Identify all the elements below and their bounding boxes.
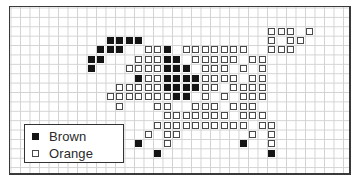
orange-stitch — [259, 122, 266, 129]
brown-stitch — [97, 46, 104, 53]
orange-stitch — [164, 140, 171, 147]
orange-stitch — [221, 112, 228, 119]
orange-stitch — [221, 75, 228, 82]
orange-stitch — [164, 112, 171, 119]
orange-stitch — [230, 56, 237, 63]
brown-stitch — [97, 56, 104, 63]
orange-stitch — [202, 93, 209, 100]
orange-stitch — [287, 37, 294, 44]
orange-stitch — [192, 56, 199, 63]
orange-stitch — [145, 65, 152, 72]
orange-stitch — [154, 46, 161, 53]
brown-stitch — [88, 65, 95, 72]
brown-stitch — [135, 140, 142, 147]
orange-stitch — [145, 131, 152, 138]
orange-stitch — [202, 84, 209, 91]
orange-stitch — [211, 103, 218, 110]
brown-stitch — [183, 93, 190, 100]
orange-stitch — [164, 131, 171, 138]
pattern-grid: Brown Orange — [9, 6, 351, 175]
orange-stitch — [126, 93, 133, 100]
orange-stitch — [154, 75, 161, 82]
brown-stitch — [116, 37, 123, 44]
orange-stitch — [249, 112, 256, 119]
legend-label-brown: Brown — [49, 129, 86, 144]
orange-stitch — [107, 93, 114, 100]
orange-stitch — [211, 84, 218, 91]
orange-stitch — [268, 122, 275, 129]
orange-stitch — [192, 122, 199, 129]
orange-stitch — [230, 46, 237, 53]
orange-stitch — [240, 93, 247, 100]
orange-swatch-icon — [32, 150, 39, 157]
brown-stitch — [107, 37, 114, 44]
orange-stitch — [259, 75, 266, 82]
orange-stitch — [145, 75, 152, 82]
orange-stitch — [202, 112, 209, 119]
orange-stitch — [126, 65, 133, 72]
brown-stitch — [173, 75, 180, 82]
orange-stitch — [249, 103, 256, 110]
orange-stitch — [249, 84, 256, 91]
orange-stitch — [154, 122, 161, 129]
orange-stitch — [164, 93, 171, 100]
orange-stitch — [268, 140, 275, 147]
orange-stitch — [135, 84, 142, 91]
brown-stitch — [88, 56, 95, 63]
orange-stitch — [126, 84, 133, 91]
orange-stitch — [221, 93, 228, 100]
orange-stitch — [192, 103, 199, 110]
orange-stitch — [202, 56, 209, 63]
orange-stitch — [249, 93, 256, 100]
brown-stitch — [164, 65, 171, 72]
brown-stitch — [173, 65, 180, 72]
brown-stitch — [164, 46, 171, 53]
orange-stitch — [268, 131, 275, 138]
orange-stitch — [259, 93, 266, 100]
legend-label-orange: Orange — [49, 146, 93, 161]
orange-stitch — [211, 122, 218, 129]
orange-stitch — [202, 75, 209, 82]
orange-stitch — [154, 56, 161, 63]
orange-stitch — [154, 65, 161, 72]
brown-swatch-icon — [32, 133, 39, 140]
orange-stitch — [297, 37, 304, 44]
orange-stitch — [278, 28, 285, 35]
orange-stitch — [116, 84, 123, 91]
orange-stitch — [268, 37, 275, 44]
orange-stitch — [306, 28, 313, 35]
orange-stitch — [259, 112, 266, 119]
orange-stitch — [230, 84, 237, 91]
orange-stitch — [211, 46, 218, 53]
brown-stitch — [240, 140, 247, 147]
orange-stitch — [268, 28, 275, 35]
orange-stitch — [278, 46, 285, 53]
orange-stitch — [202, 122, 209, 129]
orange-stitch — [249, 56, 256, 63]
orange-stitch — [230, 103, 237, 110]
orange-stitch — [240, 112, 247, 119]
orange-stitch — [249, 75, 256, 82]
brown-stitch — [173, 93, 180, 100]
brown-stitch — [192, 75, 199, 82]
orange-stitch — [249, 131, 256, 138]
brown-stitch — [135, 37, 142, 44]
orange-stitch — [240, 84, 247, 91]
orange-stitch — [183, 112, 190, 119]
brown-stitch — [183, 65, 190, 72]
brown-stitch — [183, 84, 190, 91]
orange-stitch — [154, 93, 161, 100]
orange-stitch — [259, 65, 266, 72]
orange-stitch — [164, 103, 171, 110]
brown-stitch — [192, 84, 199, 91]
brown-stitch — [164, 56, 171, 63]
brown-stitch — [154, 150, 161, 157]
brown-stitch — [107, 46, 114, 53]
orange-stitch — [211, 65, 218, 72]
orange-stitch — [230, 75, 237, 82]
orange-stitch — [145, 46, 152, 53]
legend-item-brown: Brown — [25, 128, 86, 144]
orange-stitch — [164, 122, 171, 129]
orange-stitch — [240, 46, 247, 53]
orange-stitch — [145, 93, 152, 100]
